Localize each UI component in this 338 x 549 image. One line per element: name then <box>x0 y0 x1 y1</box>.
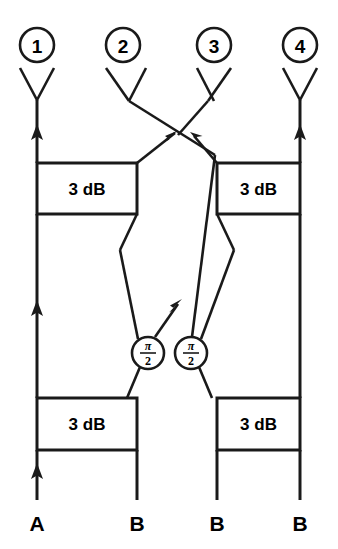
input-port-label-b2: B <box>209 512 224 535</box>
phase-shifter-right-denominator: 2 <box>188 354 194 368</box>
link-phase-left-to-bottom-left <box>127 367 140 398</box>
antenna-symbol-3 <box>197 68 231 101</box>
link-phase-right-to-bottom-right <box>199 367 212 398</box>
antenna-symbol-1 <box>20 68 54 100</box>
coupler-top-right-label: 3 dB <box>240 180 277 199</box>
antenna-port-label-4: 4 <box>295 36 306 57</box>
rail-left-outer <box>31 214 43 398</box>
antenna-port-label-3: 3 <box>209 36 220 57</box>
phase-left-output-diagonal <box>155 299 182 337</box>
coupler-bottom-left-label: 3 dB <box>69 415 106 434</box>
coupler-bottom-right[interactable]: 3 dB <box>217 398 300 450</box>
antenna-port-label-2: 2 <box>118 36 129 57</box>
antenna-port-3[interactable]: 3 <box>197 28 231 62</box>
antenna-port-1[interactable]: 1 <box>20 28 54 62</box>
crossover-link-left <box>178 101 208 135</box>
arrow-up-phase-left <box>169 299 182 313</box>
link-topleft-to-phase-left <box>120 214 138 339</box>
antenna-symbol-2 <box>106 68 146 101</box>
coupler-top-left[interactable]: 3 dB <box>37 163 137 214</box>
coupler-top-right-cross-output <box>190 132 217 163</box>
phase-shifter-right[interactable]: π 2 <box>175 337 207 369</box>
phase-shifter-left[interactable]: π 2 <box>132 337 164 369</box>
input-port-label-b1: B <box>129 512 144 535</box>
input-port-label-b3: B <box>292 512 307 535</box>
phase-shifter-right-numerator: π <box>188 339 195 353</box>
antenna-port-4[interactable]: 4 <box>283 28 317 62</box>
schematic-canvas: 1 2 3 4 <box>0 0 338 549</box>
coupler-top-left-cross-output <box>137 131 178 164</box>
feed-antenna-4 <box>294 100 306 163</box>
butler-matrix-diagram: 1 2 3 4 <box>0 0 338 549</box>
antenna-port-label-1: 1 <box>32 36 43 57</box>
coupler-top-right[interactable]: 3 dB <box>217 163 300 214</box>
feed-antenna-1 <box>31 100 43 163</box>
coupler-bottom-right-label: 3 dB <box>240 415 277 434</box>
coupler-top-left-label: 3 dB <box>69 180 106 199</box>
coupler-bottom-left[interactable]: 3 dB <box>37 398 137 450</box>
antenna-symbol-4 <box>283 68 317 100</box>
phase-shifter-left-numerator: π <box>145 339 152 353</box>
antenna-port-2[interactable]: 2 <box>106 28 140 62</box>
input-port-label-a: A <box>29 512 44 535</box>
input-stub-a <box>31 450 43 500</box>
phase-shifter-left-denominator: 2 <box>145 354 151 368</box>
